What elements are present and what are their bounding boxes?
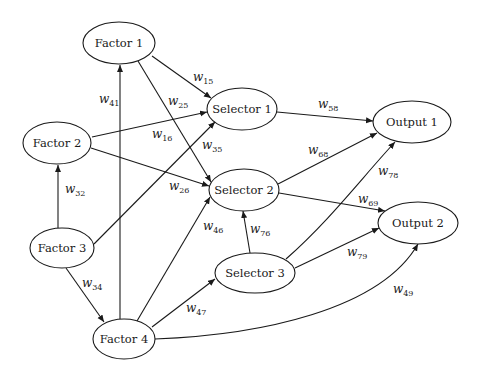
weight-label-w68: w68	[308, 143, 328, 159]
weight-label-w16: w16	[152, 127, 172, 143]
edge-w76	[243, 211, 250, 253]
node-label: Selector 1	[212, 102, 272, 116]
node-selector-2: Selector 2	[209, 169, 279, 211]
weight-label-w76: w76	[250, 222, 270, 238]
node-factor-1: Factor 1	[83, 22, 155, 64]
node-label: Output 1	[386, 115, 438, 129]
node-label: Factor 1	[95, 36, 144, 50]
weight-label-w25: w25	[168, 94, 188, 110]
edge-w47	[152, 279, 215, 327]
weight-label-w34: w34	[82, 276, 102, 292]
node-label: Selector 2	[214, 183, 274, 197]
weight-label-w35: w35	[202, 138, 222, 154]
weight-label-w32: w32	[65, 182, 85, 198]
edge-w16	[92, 112, 207, 137]
factor-selector-output-network: w15w25w41w16w35w26w32w58w68w78w69w76w79w…	[0, 0, 480, 374]
node-label: Selector 3	[225, 266, 285, 280]
edge-w58	[277, 112, 373, 121]
node-factor-2: Factor 2	[23, 122, 91, 164]
weight-label-w26: w26	[169, 179, 189, 195]
weight-label-w78: w78	[378, 164, 398, 180]
edge-w78	[286, 142, 395, 259]
node-output-1: Output 1	[373, 101, 451, 143]
weight-label-w79: w79	[347, 245, 367, 261]
weight-label-w46: w46	[203, 219, 223, 235]
node-selector-3: Selector 3	[215, 253, 295, 293]
weight-label-w69: w69	[358, 192, 378, 208]
edge-w26	[91, 148, 209, 186]
node-factor-3: Factor 3	[30, 228, 94, 268]
node-selector-1: Selector 1	[207, 88, 277, 130]
edge-w46	[137, 197, 210, 321]
node-factor-4: Factor 4	[93, 319, 155, 359]
node-label: Factor 2	[33, 136, 82, 150]
edge-w79	[295, 228, 379, 268]
node-label: Output 2	[392, 216, 444, 230]
node-label: Factor 4	[100, 332, 149, 346]
weight-label-w47: w47	[186, 301, 206, 317]
node-output-2: Output 2	[378, 202, 458, 244]
nodes-layer: Factor 1Factor 2Factor 3Factor 4Selector…	[23, 22, 458, 359]
weight-label-w15: w15	[193, 70, 213, 86]
weight-label-w58: w58	[318, 97, 338, 113]
weight-label-w49: w49	[393, 282, 413, 298]
weight-label-w41: w41	[99, 92, 119, 108]
node-label: Factor 3	[38, 241, 87, 255]
